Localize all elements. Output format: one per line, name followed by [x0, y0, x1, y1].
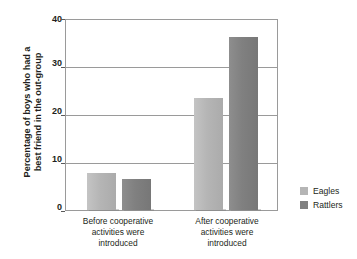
legend-swatch-rattlers-icon [300, 201, 308, 209]
x-axis-label-after: After cooperative activities were introd… [172, 216, 282, 248]
x-axis-label-after-line-3: introduced [172, 238, 282, 249]
y-axis-title-line-1: Percentage of boys who had a [22, 47, 33, 178]
x-axis-label-before-line-1: Before cooperative [63, 216, 173, 227]
y-tick-mark-0 [61, 211, 65, 212]
y-tick-label-40: 40 [42, 15, 62, 24]
bar-before-eagles [87, 173, 116, 210]
y-tick-label-10: 10 [42, 155, 62, 164]
x-axis-label-after-line-1: After cooperative [172, 216, 282, 227]
plot-area [65, 19, 278, 211]
y-tick-label-20: 20 [42, 107, 62, 116]
x-axis-label-before-line-3: introduced [63, 238, 173, 249]
bar-after-rattlers [229, 37, 258, 210]
bar-after-eagles [194, 98, 223, 210]
x-axis-label-before-line-2: activities were [63, 227, 173, 238]
x-axis-label-after-line-2: activities were [172, 227, 282, 238]
bar-before-rattlers [122, 179, 151, 210]
legend-swatch-eagles-icon [300, 187, 308, 195]
y-tick-label-0: 0 [42, 203, 62, 212]
chart-legend: Eagles Rattlers [300, 184, 357, 212]
legend-item-eagles: Eagles [300, 184, 357, 198]
y-tick-label-30: 30 [42, 59, 62, 68]
legend-label-rattlers: Rattlers [313, 200, 343, 210]
legend-item-rattlers: Rattlers [300, 198, 357, 212]
legend-label-eagles: Eagles [313, 186, 339, 196]
bar-chart-figure: Percentage of boys who had a best friend… [0, 0, 357, 259]
x-axis-label-before: Before cooperative activities were intro… [63, 216, 173, 248]
